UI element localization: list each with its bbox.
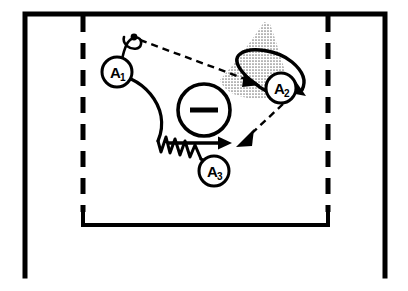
node-a1[interactable]: A 1	[102, 57, 132, 87]
minus-bar-icon	[190, 108, 218, 113]
canvas-background	[0, 0, 408, 291]
diagram-canvas: A 1 A 2 A 3	[0, 0, 408, 291]
node-a3[interactable]: A 3	[199, 156, 229, 186]
node-a2-subscript: 2	[284, 88, 290, 99]
node-a2[interactable]: A 2	[266, 73, 296, 103]
diagram-svg: A 1 A 2 A 3	[0, 0, 408, 291]
node-a3-subscript: 3	[217, 171, 223, 182]
minus-circle-symbol	[178, 84, 230, 136]
antenna-dot	[131, 34, 138, 41]
node-a1-subscript: 1	[120, 72, 126, 83]
